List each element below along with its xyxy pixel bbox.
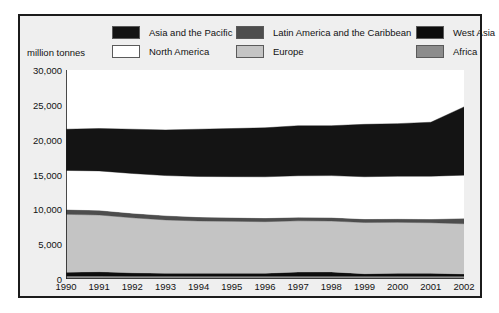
legend-label-africa: Africa bbox=[453, 46, 477, 57]
legend-swatch-europe bbox=[236, 45, 264, 58]
x-axis-tick-label: 1997 bbox=[288, 281, 309, 292]
x-axis-tick-label: 1996 bbox=[254, 281, 275, 292]
y-axis-tick-label: 5,000 bbox=[38, 239, 62, 250]
legend-item-asia-and-the-pacific[interactable]: Asia and the Pacific bbox=[112, 25, 232, 40]
y-axis-unit-label: million tonnes bbox=[27, 47, 85, 58]
y-axis-tick-label: 15,000 bbox=[33, 169, 62, 180]
y-axis-tick-label: 20,000 bbox=[33, 134, 62, 145]
legend-label-europe: Europe bbox=[273, 46, 304, 57]
legend-item-africa[interactable]: Africa bbox=[416, 44, 477, 59]
chart-figure: Asia and the Pacific North America Latin… bbox=[0, 0, 499, 313]
legend-label-north-america: North America bbox=[149, 46, 209, 57]
x-axis-tick-label: 1991 bbox=[89, 281, 110, 292]
legend-label-asia-and-the-pacific: Asia and the Pacific bbox=[149, 27, 232, 38]
plot-area bbox=[66, 70, 464, 279]
y-axis-tick-label: 30,000 bbox=[33, 65, 62, 76]
legend-swatch-africa bbox=[416, 45, 444, 58]
x-axis-tick-labels: 1990199119921993199419951996199719981999… bbox=[66, 281, 464, 295]
chart-panel: Asia and the Pacific North America Latin… bbox=[18, 14, 482, 298]
legend-label-west-asia: West Asia bbox=[453, 27, 495, 38]
x-axis-tick-label: 1999 bbox=[354, 281, 375, 292]
legend-swatch-west-asia bbox=[416, 26, 444, 39]
legend-item-north-america[interactable]: North America bbox=[112, 44, 209, 59]
legend-item-west-asia[interactable]: West Asia bbox=[416, 25, 495, 40]
legend-swatch-latin-america-and-the-caribbean bbox=[236, 26, 264, 39]
area-series-europe[interactable] bbox=[66, 214, 464, 274]
x-axis-tick-label: 1990 bbox=[55, 281, 76, 292]
x-axis-tick-label: 1993 bbox=[155, 281, 176, 292]
y-axis-tick-labels: 05,00010,00015,00020,00025,00030,000 bbox=[20, 70, 62, 279]
legend-swatch-asia-and-the-pacific bbox=[112, 26, 140, 39]
stacked-area-chart bbox=[66, 70, 464, 279]
x-axis-tick-label: 2000 bbox=[387, 281, 408, 292]
chart-legend: Asia and the Pacific North America Latin… bbox=[20, 16, 480, 62]
x-axis-tick-label: 1992 bbox=[122, 281, 143, 292]
area-series-north-america[interactable] bbox=[66, 170, 464, 219]
x-axis-tick-label: 2002 bbox=[453, 281, 474, 292]
x-axis-tick-label: 2001 bbox=[420, 281, 441, 292]
legend-item-latin-america-and-the-caribbean[interactable]: Latin America and the Caribbean bbox=[236, 25, 411, 40]
legend-swatch-north-america bbox=[112, 45, 140, 58]
legend-item-europe[interactable]: Europe bbox=[236, 44, 304, 59]
y-axis-tick-label: 10,000 bbox=[33, 204, 62, 215]
y-axis-tick-label: 25,000 bbox=[33, 99, 62, 110]
x-axis-tick-label: 1994 bbox=[188, 281, 209, 292]
x-axis-tick-label: 1998 bbox=[321, 281, 342, 292]
x-axis-tick-label: 1995 bbox=[221, 281, 242, 292]
legend-label-latin-america-and-the-caribbean: Latin America and the Caribbean bbox=[273, 27, 411, 38]
